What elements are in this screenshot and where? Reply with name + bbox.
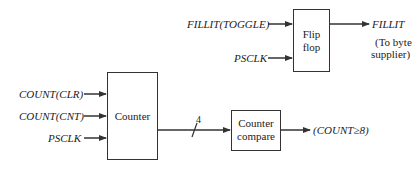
count-ge-8-label: (COUNT≥8) xyxy=(313,125,369,136)
fillit-toggle-label: FILLIT(TOGGLE) xyxy=(187,19,269,30)
counter-label: Counter xyxy=(107,110,158,123)
fillit-out-label: FILLIT xyxy=(372,19,404,30)
fillit-note-line1: (To byte xyxy=(375,37,412,48)
psclk-bottom-label: PSCLK xyxy=(48,133,81,144)
flip-flop-label: Flip flop xyxy=(293,28,330,54)
fillit-note-line2: supplier) xyxy=(371,49,410,60)
count-cnt-label: COUNT(CNT) xyxy=(19,111,84,122)
flip-flop-label-line1: Flip xyxy=(293,28,330,41)
count-clr-label: COUNT(CLR) xyxy=(19,89,83,100)
flip-flop-label-line2: flop xyxy=(293,41,330,54)
counter-compare-label-line2: compare xyxy=(231,130,281,143)
timing-block-diagram: Flip flop Counter Counter compare FILLIT… xyxy=(0,0,420,169)
bus-width-label: 4 xyxy=(196,115,201,125)
counter-compare-label-line1: Counter xyxy=(231,117,281,130)
counter-compare-label: Counter compare xyxy=(231,117,281,143)
psclk-top-label: PSCLK xyxy=(234,53,267,64)
